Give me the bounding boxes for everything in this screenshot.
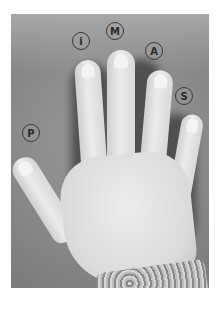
label-ring: A <box>145 42 163 60</box>
label-text: A <box>150 46 158 57</box>
hand-photo <box>11 14 209 288</box>
label-little: S <box>175 87 193 105</box>
fingernail <box>114 54 128 68</box>
label-index: i <box>72 32 90 50</box>
fingernail <box>185 118 198 134</box>
fingernail <box>15 159 33 178</box>
label-middle: M <box>106 22 124 40</box>
fingernail <box>153 74 167 89</box>
label-text: M <box>110 26 120 37</box>
label-text: S <box>180 91 187 102</box>
label-thumb: P <box>22 124 40 142</box>
label-text: P <box>27 128 34 139</box>
label-text: i <box>79 36 82 47</box>
fingernail <box>81 64 95 79</box>
